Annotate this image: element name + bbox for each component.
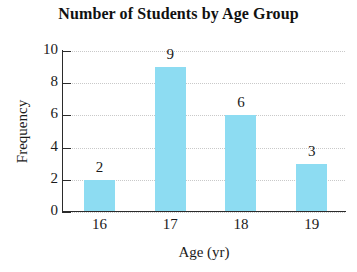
- y-axis-tick-mark: [62, 115, 71, 116]
- y-axis-tick-label: 6: [18, 105, 58, 122]
- bar-value-label: 6: [211, 94, 271, 111]
- y-axis-tick-label: 10: [18, 41, 58, 58]
- y-axis-tick-labels: 0246810: [16, 0, 58, 272]
- gridline: [62, 115, 345, 116]
- bar-value-label: 2: [69, 159, 129, 176]
- x-axis-tick-label: 17: [140, 216, 200, 233]
- x-axis-tick-label: 18: [211, 216, 271, 233]
- bar: [225, 115, 256, 212]
- x-axis-tick-label: 19: [282, 216, 342, 233]
- y-axis-tick-mark: [62, 212, 71, 213]
- x-axis-tick-label: 16: [69, 216, 129, 233]
- plot-area: 2963: [62, 51, 345, 212]
- y-axis-tick-mark: [62, 51, 71, 52]
- bar: [296, 164, 327, 212]
- gridline: [62, 212, 345, 213]
- bar: [84, 180, 115, 212]
- gridline: [62, 51, 345, 52]
- y-axis-tick-mark: [62, 83, 71, 84]
- y-axis-tick-label: 0: [18, 202, 58, 219]
- gridline: [62, 83, 345, 84]
- y-axis-tick-mark: [62, 180, 71, 181]
- x-axis-line: [62, 211, 346, 212]
- bar-value-label: 9: [140, 46, 200, 63]
- bar-value-label: 3: [282, 143, 342, 160]
- y-axis-tick-label: 8: [18, 73, 58, 90]
- y-axis-line: [62, 50, 63, 213]
- y-axis-tick-label: 4: [18, 138, 58, 155]
- chart-figure: Number of Students by Age Group Frequenc…: [0, 0, 357, 272]
- y-axis-tick-mark: [62, 148, 71, 149]
- y-axis-tick-label: 2: [18, 170, 58, 187]
- x-axis-title: Age (yr): [62, 244, 346, 261]
- bar: [155, 67, 186, 212]
